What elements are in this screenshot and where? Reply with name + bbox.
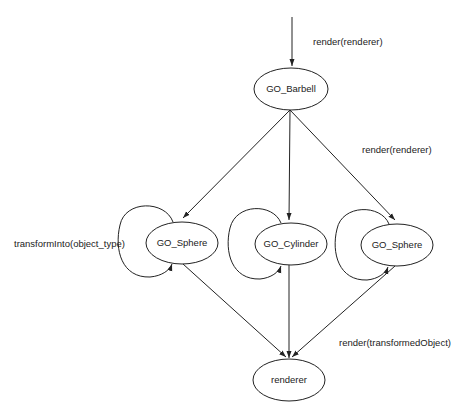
node-label-renderer: renderer <box>271 375 307 385</box>
edge-sphere-left-renderer <box>183 264 286 357</box>
edge-barbell-sphere-right <box>290 110 395 220</box>
edge-label-self-loop: transformInto(object_type) <box>14 239 125 249</box>
node-label-go-barbell: GO_Barbell <box>266 84 316 94</box>
edge-label-to-children: render(renderer) <box>362 145 432 155</box>
node-label-go-sphere-left: GO_Sphere <box>157 238 208 248</box>
edge-label-entry: render(renderer) <box>313 37 383 47</box>
node-label-go-cylinder: GO_Cylinder <box>264 239 319 249</box>
edge-barbell-sphere-left <box>183 110 290 218</box>
node-label-go-sphere-right: GO_Sphere <box>372 240 423 250</box>
edge-label-to-renderer: render(transformedObject) <box>339 338 451 348</box>
edge-barbell-cylinder <box>289 110 290 220</box>
